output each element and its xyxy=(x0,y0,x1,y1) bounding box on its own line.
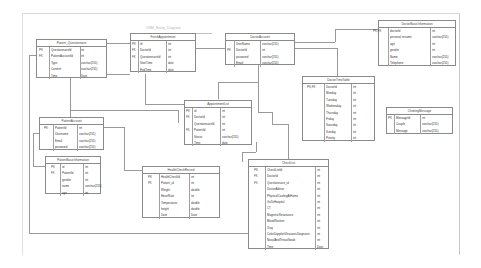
entity-title: ChattingMessage xyxy=(387,108,452,115)
entity-title: AppointmentList xyxy=(185,101,251,108)
entity-rows: PKMessageIdint Couplevarchar(255) Messag… xyxy=(387,115,452,134)
entity-row: EndTimedate xyxy=(131,67,195,73)
entity-title: DoctorAccount xyxy=(226,34,294,41)
entity-rows: PKCheckListIdint FKDoctorIdint FKQuestio… xyxy=(249,167,328,250)
entity-finish-appointment[interactable]: FinishAppointment PKidint FKDoctorIdint … xyxy=(130,33,196,72)
entity-title: PatientAccount xyxy=(40,118,103,125)
entity-rows: PKQuestionnaireIdint FKPatientAccountIdi… xyxy=(37,47,106,79)
entity-title: DoctorTimeTable xyxy=(303,77,374,84)
entity-row: Emailvarchar(255) xyxy=(226,60,294,66)
entity-row: Priorityint xyxy=(303,135,374,141)
title-underline xyxy=(196,33,212,34)
entity-doctor-time-table[interactable]: DoctorTimeTable PK,FKDoctorIdint Mondayi… xyxy=(302,76,375,141)
entity-rows: PKidint FKDoctorIdint FKQuestionnaireIdi… xyxy=(131,41,195,73)
entity-rows: PKPatientIdint Usernamevarchar(255) Emai… xyxy=(40,125,103,151)
entity-patient-questionnaire[interactable]: Patient_Questionnaire PKQuestionnaireIdi… xyxy=(36,39,107,78)
entity-title: CheckList xyxy=(249,160,328,167)
entity-row: ageint xyxy=(46,190,100,196)
entity-rows: PKHealthCheckIdint FKPatient_idint Weigh… xyxy=(143,174,219,219)
entity-title: FinishAppointment xyxy=(131,34,195,41)
entity-appointment-list[interactable]: AppointmentList PKidint FKDoctorIdint Qu… xyxy=(184,100,252,145)
entity-rows: PK,FKdoctorIdint personal resumevarchar(… xyxy=(379,28,455,66)
entity-rows: PKidint FKDoctorIdint QuestionnaireIdint… xyxy=(185,108,251,146)
entity-chatting-message[interactable]: ChattingMessage PKMessageIdint Couplevar… xyxy=(386,107,453,134)
entity-rows: PK,FKDoctorIdint Mondayint Tuesdayint We… xyxy=(303,84,374,142)
entity-rows: UserNamevarchar(255) PKDoctorIdint passw… xyxy=(226,41,294,67)
entity-health-check-record[interactable]: HealthCheckRecord PKHealthCheckIdint FKP… xyxy=(142,166,220,218)
entity-rows: PKidint FKPatientIdint genderint namevar… xyxy=(46,164,100,196)
entity-row: Telephonevarchar(255) xyxy=(379,60,455,66)
entity-row: TimeDate xyxy=(37,73,106,79)
entity-title: DoctorBasicInformation xyxy=(379,21,455,28)
entity-doctor-basic-information[interactable]: DoctorBasicInformation PK,FKdoctorIdint … xyxy=(378,20,456,66)
entity-row: Messagevarchar(255) xyxy=(387,128,452,134)
entity-title: HealthCheckRecord xyxy=(143,167,219,174)
entity-row: passwordvarchar(255) xyxy=(40,144,103,150)
entity-row: Timedate xyxy=(185,140,251,146)
entity-patient-basic-information[interactable]: PatientBasicInformation PKidint FKPatien… xyxy=(45,156,101,194)
entity-check-list[interactable]: CheckList PKCheckListIdint FKDoctorIdint… xyxy=(248,159,329,249)
entity-doctor-account[interactable]: DoctorAccount UserNamevarchar(255) PKDoc… xyxy=(225,33,295,65)
entity-row: DateDate xyxy=(143,212,219,218)
entity-title: PatientBasicInformation xyxy=(46,157,100,164)
entity-patient-account[interactable]: PatientAccount PKPatientIdint Usernameva… xyxy=(39,117,104,150)
entity-title: Patient_Questionnaire xyxy=(37,40,106,47)
diagram-title: OSM_Entity_Diagram xyxy=(146,26,181,30)
entity-row: TimeDate xyxy=(249,244,328,250)
